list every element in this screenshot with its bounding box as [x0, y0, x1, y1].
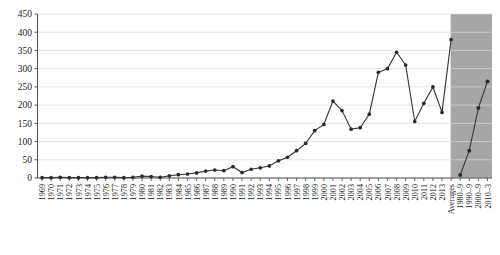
- x-axis-year-label: 2003: [347, 184, 356, 200]
- y-axis-tick-label: 300: [18, 64, 33, 74]
- data-point: [222, 169, 226, 173]
- data-point: [249, 167, 253, 171]
- y-axis-tick-label: 250: [18, 82, 33, 92]
- x-axis-year-label: 1978: [120, 184, 129, 200]
- y-axis-tick-label: 400: [18, 28, 33, 38]
- data-point: [213, 168, 217, 172]
- data-point: [177, 173, 181, 177]
- x-axis-decade-label: 2000–9: [474, 184, 483, 209]
- x-axis-year-label: 1981: [147, 184, 156, 200]
- x-axis-year-label: 1979: [129, 184, 138, 200]
- x-axis-year-label: 1974: [84, 184, 93, 200]
- data-point: [431, 85, 435, 89]
- x-axis-year-label: 1985: [184, 184, 193, 200]
- x-axis-year-label: 2011: [420, 184, 429, 200]
- x-axis-year-label: 1998: [302, 184, 311, 200]
- data-point: [286, 155, 290, 159]
- data-point: [386, 67, 390, 71]
- main-series-markers: [40, 38, 453, 180]
- x-axis-year-label: 1995: [274, 184, 283, 200]
- data-point: [349, 127, 353, 131]
- x-axis-decade-label: 1990–9: [465, 184, 474, 209]
- x-axis-year-label: 1987: [202, 184, 211, 200]
- data-point: [67, 176, 71, 180]
- x-axis-year-label: 1989: [220, 184, 229, 200]
- data-point: [167, 174, 171, 178]
- data-point: [77, 176, 81, 180]
- x-axis-year-label: 1993: [256, 184, 265, 200]
- x-axis-year-label: 1972: [65, 184, 74, 200]
- data-point: [458, 173, 462, 177]
- data-point: [158, 175, 162, 179]
- x-axis-decade-label: 2010–3: [484, 184, 493, 209]
- x-axis-year-label: 1977: [111, 184, 120, 200]
- x-axis-year-label: 1999: [311, 184, 320, 200]
- x-axis-year-label: 1975: [93, 184, 102, 200]
- data-point: [367, 112, 371, 116]
- data-point: [277, 159, 281, 163]
- data-point: [413, 120, 417, 124]
- x-axis-year-label: 2006: [374, 184, 383, 200]
- main-series-line: [42, 40, 451, 178]
- data-point: [358, 126, 362, 130]
- y-axis-tick-label: 50: [23, 155, 33, 165]
- x-axis-year-label: 2002: [338, 184, 347, 200]
- data-point: [331, 99, 335, 103]
- data-point: [113, 175, 117, 179]
- x-axis-year-label: 2010: [411, 184, 420, 200]
- line-chart-plot: 0501001502002503003504004501969197019711…: [0, 0, 500, 255]
- x-axis-averages-label: Averages: [447, 184, 456, 214]
- data-point: [186, 172, 190, 176]
- data-point: [40, 176, 44, 180]
- data-point: [58, 175, 62, 179]
- data-point: [95, 176, 99, 180]
- x-axis-year-label: 1994: [265, 184, 274, 200]
- x-axis-year-label: 1971: [56, 184, 65, 200]
- x-axis-decade-label: 1980–9: [456, 184, 465, 209]
- data-point: [340, 109, 344, 113]
- x-axis-year-label: 1996: [284, 184, 293, 200]
- data-point: [485, 79, 489, 83]
- data-point: [49, 176, 53, 180]
- data-point: [258, 166, 262, 170]
- x-axis-year-label: 1991: [238, 184, 247, 200]
- data-point: [322, 123, 326, 127]
- x-axis-year-label: 1976: [102, 184, 111, 200]
- x-axis-year-label: 2013: [438, 184, 447, 200]
- x-axis-year-label: 1982: [156, 184, 165, 200]
- data-point: [395, 50, 399, 54]
- data-point: [104, 175, 108, 179]
- data-point: [195, 171, 199, 175]
- x-axis-year-label: 2005: [365, 184, 374, 200]
- data-point: [231, 165, 235, 169]
- data-point: [86, 176, 90, 180]
- data-point: [240, 171, 244, 175]
- y-axis-tick-label: 100: [18, 137, 33, 147]
- data-point: [476, 106, 480, 110]
- x-axis-labels: 1969197019711972197319741975197619771978…: [38, 178, 492, 214]
- x-axis-year-label: 1986: [193, 184, 202, 200]
- x-axis-year-label: 1992: [247, 184, 256, 200]
- x-axis-year-label: 1990: [229, 184, 238, 200]
- x-axis-year-label: 1969: [38, 184, 47, 200]
- data-point: [267, 164, 271, 168]
- x-axis-year-label: 2008: [393, 184, 402, 200]
- data-point: [131, 175, 135, 179]
- x-axis-year-label: 1988: [211, 184, 220, 200]
- y-axis-tick-label: 350: [18, 46, 33, 56]
- data-point: [304, 142, 308, 146]
- x-axis-year-label: 1983: [165, 184, 174, 200]
- data-point: [404, 63, 408, 67]
- data-point: [440, 111, 444, 115]
- x-axis-year-label: 1997: [293, 184, 302, 200]
- x-axis-year-label: 2001: [329, 184, 338, 200]
- x-axis-year-label: 2012: [429, 184, 438, 200]
- data-point: [149, 175, 153, 179]
- data-point: [449, 38, 453, 42]
- y-axis-tick-label: 0: [27, 173, 32, 183]
- x-axis-year-label: 1984: [175, 184, 184, 200]
- data-point: [204, 169, 208, 173]
- y-axis-tick-label: 450: [18, 9, 33, 19]
- data-point: [422, 101, 426, 105]
- x-axis-year-label: 1970: [47, 184, 56, 200]
